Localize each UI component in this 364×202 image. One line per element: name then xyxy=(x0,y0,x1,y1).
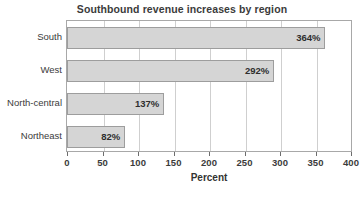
x-tick-mark xyxy=(103,152,104,156)
x-tick-label: 350 xyxy=(296,157,336,168)
x-tick-mark xyxy=(209,152,210,156)
bar-row: 364% xyxy=(67,27,353,49)
x-tick-label: 50 xyxy=(83,157,123,168)
x-tick-label: 0 xyxy=(47,157,87,168)
x-tick-mark xyxy=(351,152,352,156)
x-tick-label: 250 xyxy=(225,157,265,168)
bar-row: 292% xyxy=(67,60,353,82)
bar-row: 82% xyxy=(67,126,353,148)
bar-row: 137% xyxy=(67,93,353,115)
y-axis-label-northeast: Northeast xyxy=(0,125,62,147)
x-tick-mark xyxy=(138,152,139,156)
y-axis-label-south: South xyxy=(0,26,62,48)
x-tick-label: 300 xyxy=(260,157,300,168)
x-tick-mark xyxy=(174,152,175,156)
y-axis-category-labels: NortheastNorth-centralWestSouth xyxy=(0,20,62,152)
bar-value-label: 137% xyxy=(67,93,164,115)
x-axis-title: Percent xyxy=(66,172,352,183)
x-tick-mark xyxy=(245,152,246,156)
bar-value-label: 82% xyxy=(67,126,125,148)
bar-value-label: 292% xyxy=(67,60,274,82)
x-tick-label: 400 xyxy=(331,157,364,168)
plot-area: 82%137%292%364% xyxy=(66,20,352,152)
x-tick-mark xyxy=(316,152,317,156)
x-tick-label: 100 xyxy=(118,157,158,168)
x-tick-label: 200 xyxy=(189,157,229,168)
x-tick-mark xyxy=(67,152,68,156)
x-axis-tick-labels: 050100150200250300350400 xyxy=(66,157,352,171)
bar-chart: Southbound revenue increases by region N… xyxy=(0,0,364,202)
y-axis-label-north-central: North-central xyxy=(0,92,62,114)
chart-title: Southbound revenue increases by region xyxy=(0,3,364,15)
bar-value-label: 364% xyxy=(67,27,325,49)
x-tick-mark xyxy=(280,152,281,156)
y-axis-label-west: West xyxy=(0,59,62,81)
x-tick-label: 150 xyxy=(154,157,194,168)
